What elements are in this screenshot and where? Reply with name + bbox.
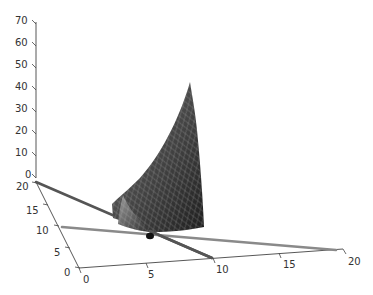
intersection-marker: [146, 233, 154, 239]
x-tick-label: 10: [216, 264, 229, 275]
z-tick-label: 70: [15, 15, 28, 26]
z-tick-label: 0: [25, 169, 31, 180]
x-tick-label: 20: [348, 256, 361, 267]
surface-plot: 70 60 50 40 30 20 10 0 20 15 10 5 0 0 5 …: [0, 0, 373, 295]
z-tick-label: 30: [15, 103, 28, 114]
x-tick-label: 5: [148, 269, 154, 280]
z-tick-label: 10: [15, 147, 28, 158]
surface: [112, 82, 204, 232]
y-tick-label: 0: [64, 267, 70, 278]
x-tick-label: 0: [83, 274, 89, 285]
z-tick-label: 60: [15, 37, 28, 48]
y-tick-label: 10: [36, 225, 49, 236]
z-tick-label: 20: [15, 125, 28, 136]
reference-line-1-front: [150, 231, 212, 258]
x-tick-label: 15: [283, 259, 296, 270]
x-axis: 0 5 10 15 20: [79, 249, 361, 285]
z-axis-ticks: [32, 20, 36, 178]
y-tick-label: 15: [26, 205, 39, 216]
z-tick-label: 40: [15, 81, 28, 92]
y-tick-label: 20: [16, 181, 29, 192]
y-tick-label: 5: [54, 247, 60, 258]
z-tick-label: 50: [15, 59, 28, 70]
reference-line-2: [62, 227, 336, 250]
z-axis: 70 60 50 40 30 20 10 0: [15, 15, 36, 180]
